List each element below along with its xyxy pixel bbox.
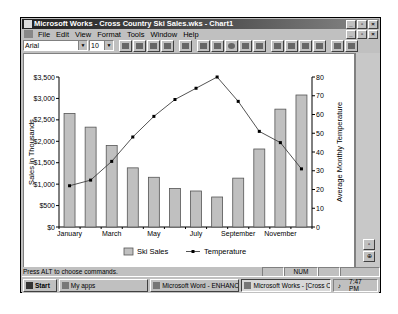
zoom-in-icon[interactable]: ⊕: [363, 251, 375, 262]
legend-marker-temperature: [192, 250, 195, 253]
combo-chart: $0$500$1,000$1,500$2,000$2,500$3,000$3,5…: [24, 54, 354, 268]
xy-chart-button[interactable]: [239, 40, 252, 52]
bar-june[interactable]: [169, 188, 180, 227]
start-button[interactable]: Start: [23, 279, 57, 292]
menu-view[interactable]: View: [72, 30, 94, 39]
taskbar-item-works[interactable]: Microsoft Works - [Cross C...: [241, 279, 330, 292]
bar-may[interactable]: [148, 177, 159, 227]
help-button[interactable]: [345, 40, 358, 52]
bar-january[interactable]: [64, 113, 75, 227]
pie-chart-icon: [228, 43, 235, 49]
bar-chart-icon: [200, 43, 207, 49]
taskbar-item-my-apps[interactable]: My apps: [59, 279, 148, 292]
legend-label: Temperature: [204, 247, 246, 256]
doc-close-button[interactable]: ×: [368, 30, 378, 39]
chart-area[interactable]: $0$500$1,000$1,500$2,000$2,500$3,000$3,5…: [23, 53, 355, 269]
legend-label: Ski Sales: [137, 247, 169, 256]
stacked-bar-button[interactable]: [253, 40, 266, 52]
menu-tools[interactable]: Tools: [124, 30, 148, 39]
print-icon: [150, 43, 157, 49]
y2-tick-label: 40: [316, 149, 324, 156]
minimize-button[interactable]: _: [346, 20, 356, 29]
bar-august[interactable]: [212, 197, 223, 227]
chart-document-icon[interactable]: [24, 30, 33, 38]
print-preview-button[interactable]: [161, 40, 174, 52]
word-icon: [153, 282, 160, 289]
bar-september[interactable]: [233, 178, 244, 227]
task-label: Microsoft Works - [Cross C...: [253, 282, 330, 289]
temperature-marker: [89, 179, 92, 182]
vertical-scrollbar[interactable]: ▫ ⊕: [355, 53, 380, 267]
doc-minimize-button[interactable]: _: [346, 30, 356, 39]
works-window: Microsoft Works - Cross Country Ski Sale…: [20, 17, 381, 293]
status-message: Press ALT to choose commands.: [23, 267, 118, 276]
print-button[interactable]: [147, 40, 160, 52]
line-chart-button[interactable]: [211, 40, 224, 52]
x-tick-label: November: [264, 230, 297, 237]
y-tick-label: $1,000: [34, 181, 56, 188]
font-name-select[interactable]: Arial ▼: [23, 40, 88, 51]
go-to-spreadsheet-button[interactable]: [331, 40, 344, 52]
bar-december[interactable]: [296, 95, 307, 227]
title-bar[interactable]: Microsoft Works - Cross Country Ski Sale…: [22, 19, 379, 29]
font-size-select[interactable]: 10 ▼: [89, 40, 114, 51]
close-button[interactable]: ×: [368, 20, 378, 29]
copy-button[interactable]: [179, 40, 192, 52]
menu-file[interactable]: File: [35, 30, 53, 39]
clock[interactable]: 7:47 PM: [349, 278, 373, 292]
menu-edit[interactable]: Edit: [53, 30, 72, 39]
temperature-line[interactable]: [70, 77, 302, 186]
temperature-marker: [237, 100, 240, 103]
bar-july[interactable]: [191, 191, 202, 227]
bar-october[interactable]: [254, 149, 265, 227]
volume-icon[interactable]: ♪: [338, 282, 341, 289]
combination-chart-button[interactable]: [313, 40, 326, 52]
task-label: My apps: [71, 282, 96, 289]
y-tick-label: $0: [47, 224, 55, 231]
works-app-icon[interactable]: [24, 20, 32, 28]
menu-help[interactable]: Help: [180, 30, 201, 39]
y-tick-label: $500: [39, 202, 55, 209]
new-chart-button[interactable]: [119, 40, 132, 52]
zoom-out-icon[interactable]: ▫: [363, 239, 375, 250]
maximize-button[interactable]: ▫: [357, 20, 367, 29]
doc-restore-button[interactable]: ▫: [357, 30, 367, 39]
copy-icon: [182, 43, 189, 49]
legend-swatch-ski-sales: [124, 248, 133, 255]
x-tick-label: September: [221, 230, 256, 238]
y2-tick-label: 30: [316, 167, 324, 174]
bar-march[interactable]: [106, 146, 117, 227]
radar-chart-button[interactable]: [299, 40, 312, 52]
taskbar-item-word[interactable]: Microsoft Word - ENHANC...: [150, 279, 239, 292]
y-tick-label: $2,000: [34, 138, 56, 145]
task-label: Microsoft Word - ENHANC...: [162, 282, 239, 289]
chevron-down-icon[interactable]: ▼: [104, 41, 113, 50]
y2-tick-label: 70: [316, 92, 324, 99]
bar-chart-button[interactable]: [197, 40, 210, 52]
status-bar: Press ALT to choose commands. NUM: [22, 267, 379, 276]
y-tick-label: $2,500: [34, 116, 56, 123]
y2-tick-label: 80: [316, 74, 324, 81]
temperature-marker: [216, 76, 219, 79]
chevron-down-icon[interactable]: ▼: [78, 41, 87, 50]
x-tick-label: January: [57, 230, 82, 238]
menu-format[interactable]: Format: [94, 30, 124, 39]
save-button[interactable]: [133, 40, 146, 52]
x-tick-label: May: [147, 230, 161, 238]
bar-april[interactable]: [127, 168, 138, 227]
temperature-marker: [131, 136, 134, 139]
combination-chart-icon: [316, 43, 323, 49]
y2-tick-label: 60: [316, 111, 324, 118]
spreadsheet-icon: [334, 43, 341, 49]
line-chart-icon: [214, 43, 221, 49]
menu-window[interactable]: Window: [147, 30, 180, 39]
y2-tick-label: 10: [316, 205, 324, 212]
bar-november[interactable]: [275, 109, 286, 227]
y-tick-label: $3,000: [34, 95, 56, 102]
y2-axis-title: Average Monthly Temperature: [335, 102, 344, 202]
taskbar: Start My apps Microsoft Word - ENHANC...…: [22, 276, 379, 293]
3d-bar-button[interactable]: [285, 40, 298, 52]
x-tick-label: March: [102, 230, 122, 237]
pie-chart-button[interactable]: [225, 40, 238, 52]
3d-pie-button[interactable]: [271, 40, 284, 52]
